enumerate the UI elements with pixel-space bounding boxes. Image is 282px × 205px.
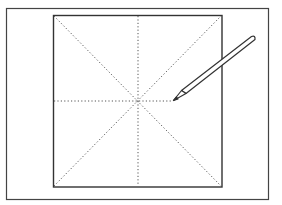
diagram-canvas: [0, 0, 282, 205]
pencil-icon: [174, 36, 256, 100]
guide-lines: [54, 16, 221, 186]
